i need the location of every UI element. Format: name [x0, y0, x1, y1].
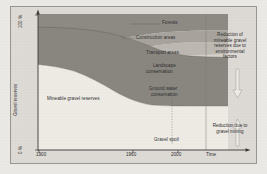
x-tick-label-1900: 1900	[36, 152, 46, 157]
y-axis-arrow	[36, 10, 40, 15]
plot-area: 100 % 0 % Gravel reserves 1900 1960 2000…	[10, 6, 257, 164]
band-label-groundwater-conservation-line2: conservation	[151, 92, 178, 97]
figure-root: 100 % 0 % Gravel reserves 1900 1960 2000…	[0, 0, 267, 174]
band-label-gravel-spoil: Gravel spoil	[154, 137, 179, 142]
y-tick-label-bottom: 0 %	[18, 146, 23, 154]
x-tick-label-1960: 1960	[126, 152, 136, 157]
band-label-groundwater-conservation-line1: Ground water	[149, 86, 177, 91]
y-tick-label-top: 100 %	[18, 15, 23, 28]
area-bands	[38, 14, 228, 150]
annotation-environmental-factors: Reduction of mineable gravel reserves du…	[209, 32, 251, 60]
band-label-landscape-conservation-line2: conservation	[146, 69, 173, 74]
annotation-arrow-environmental	[233, 69, 242, 98]
annotation-gravel-mining: Reduction due to gravel mining	[209, 123, 251, 134]
stacked-area-chart	[10, 6, 257, 164]
band-label-mineable-gravel-reserves: Mineable gravel reserves	[47, 96, 100, 101]
band-label-forests: Forests	[162, 20, 178, 25]
x-axis-arrow	[246, 148, 251, 152]
band-label-construction-areas: Construction areas	[136, 35, 175, 40]
x-tick-label-2000: 2000	[171, 152, 181, 157]
band-label-transport-areas: Transport areas	[146, 50, 179, 55]
x-axis-title: Time	[206, 152, 216, 157]
band-label-landscape-conservation-line1: Landscape	[153, 63, 176, 68]
y-axis-title: Gravel reserves	[13, 84, 18, 116]
